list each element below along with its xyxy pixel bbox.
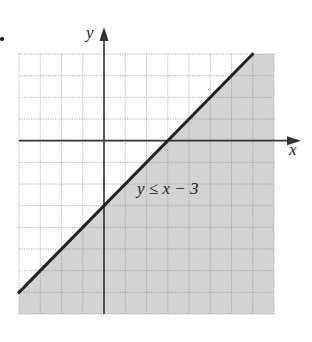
y-axis-label: y	[84, 23, 94, 42]
x-axis-label: x	[288, 140, 297, 159]
inequality-label: y ≤ x − 3	[135, 179, 198, 198]
inequality-graph: y x y ≤ x − 3	[0, 0, 312, 342]
